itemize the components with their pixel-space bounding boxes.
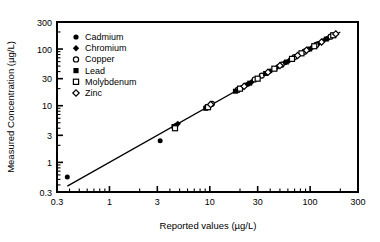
chart-figure: 0.3131030100300 0.3131030100300 CadmiumC…	[0, 0, 380, 242]
legend-label: Molybdenum	[85, 77, 137, 87]
data-point-molybdenum	[290, 56, 295, 61]
y-tick-label: 0.3	[39, 188, 52, 198]
legend-marker-zinc	[73, 90, 79, 96]
data-point-cadmium	[158, 138, 163, 143]
data-point-molybdenum	[312, 44, 317, 49]
x-tick-label: 300	[350, 197, 365, 207]
y-tick-label: 100	[37, 45, 52, 55]
legend-marker-copper	[73, 57, 78, 62]
data-point-molybdenum	[173, 126, 178, 131]
legend-label: Zinc	[85, 88, 103, 98]
scatter-plot: 0.3131030100300 0.3131030100300 CadmiumC…	[0, 0, 380, 242]
legend-label: Copper	[85, 54, 115, 64]
x-tick-label: 100	[303, 197, 318, 207]
x-tick-label: 1	[107, 197, 112, 207]
x-tick-label: 0.3	[51, 197, 64, 207]
data-point-lead	[247, 81, 252, 86]
y-tick-label: 30	[42, 74, 52, 84]
legend-label: Cadmium	[85, 32, 124, 42]
data-point-lead	[324, 37, 329, 42]
data-point-lead	[284, 60, 289, 65]
y-axis-title: Measured Concentration (µg/L)	[5, 41, 16, 173]
x-tick-labels: 0.3131030100300	[51, 197, 366, 207]
y-tick-label: 3	[47, 131, 52, 141]
legend-marker-cadmium	[73, 34, 78, 39]
legend-marker-chromium	[73, 45, 79, 51]
data-point-cadmium	[65, 175, 70, 180]
y-tick-label: 300	[37, 18, 52, 28]
y-tick-label: 1	[47, 158, 52, 168]
x-tick-label: 10	[205, 197, 215, 207]
legend-label: Chromium	[85, 43, 127, 53]
x-tick-label: 30	[253, 197, 263, 207]
legend-marker-molybdenum	[73, 79, 78, 84]
data-point-molybdenum	[255, 76, 260, 81]
data-point-molybdenum	[272, 66, 277, 71]
y-tick-labels: 0.3131030100300	[37, 18, 52, 198]
x-tick-label: 3	[155, 197, 160, 207]
legend-label: Lead	[85, 66, 105, 76]
legend-marker-lead	[73, 68, 78, 73]
y-tick-label: 10	[42, 101, 52, 111]
chart-legend: CadmiumChromiumCopperLeadMolybdenumZinc	[73, 32, 137, 98]
x-axis-title: Reported values (µg/L)	[160, 220, 257, 231]
